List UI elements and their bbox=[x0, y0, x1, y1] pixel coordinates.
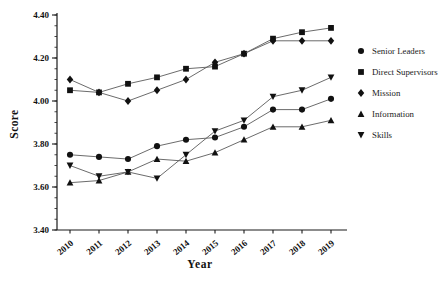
triangle-down-marker-icon bbox=[67, 163, 74, 169]
legend-item-direct-supervisors: Direct Supervisors bbox=[356, 61, 438, 82]
y-tick-label: 4.00 bbox=[33, 96, 49, 106]
triangle-down-marker-icon bbox=[328, 74, 335, 80]
circle-marker-icon bbox=[328, 96, 334, 102]
square-marker-icon bbox=[154, 74, 160, 80]
x-tick-label: 2018 bbox=[287, 238, 308, 258]
series-markers-direct-supervisors bbox=[67, 25, 334, 95]
legend: Senior Leaders Direct Supervisors Missio… bbox=[356, 40, 438, 145]
y-tick-label: 3.40 bbox=[33, 225, 49, 235]
triangle-down-marker-icon bbox=[241, 117, 248, 123]
circle-marker-icon bbox=[183, 137, 189, 143]
triangle-up-marker-icon bbox=[356, 109, 366, 119]
legend-item-skills: Skills bbox=[356, 124, 438, 145]
legend-item-mission: Mission bbox=[356, 82, 438, 103]
diamond-marker-icon bbox=[356, 88, 366, 98]
line-chart: 3.403.603.804.004.204.402010201120122013… bbox=[0, 0, 443, 281]
y-axis-title: Score bbox=[8, 109, 20, 138]
circle-marker-icon bbox=[154, 143, 160, 149]
x-tick-label: 2016 bbox=[229, 238, 250, 258]
diamond-marker-icon bbox=[358, 89, 364, 97]
diamond-marker-icon bbox=[328, 37, 334, 45]
legend-label: Senior Leaders bbox=[372, 46, 425, 56]
square-marker-icon bbox=[183, 66, 189, 72]
diamond-marker-icon bbox=[125, 97, 131, 105]
legend-label: Skills bbox=[372, 130, 392, 140]
series-markers-senior-leaders bbox=[67, 96, 334, 162]
circle-marker-icon bbox=[270, 107, 276, 113]
circle-marker-icon bbox=[299, 107, 305, 113]
square-marker-icon bbox=[356, 67, 366, 77]
circle-marker-icon bbox=[67, 152, 73, 158]
triangle-up-marker-icon bbox=[241, 136, 248, 142]
legend-item-information: Information bbox=[356, 103, 438, 124]
x-axis-title: Year bbox=[0, 258, 400, 270]
triangle-down-marker-icon bbox=[356, 130, 366, 140]
series-line-information bbox=[70, 120, 331, 182]
triangle-down-marker-icon bbox=[358, 132, 365, 138]
x-tick-label: 2012 bbox=[113, 238, 134, 258]
series-line-senior-leaders bbox=[70, 99, 331, 159]
legend-label: Information bbox=[372, 109, 414, 119]
triangle-up-marker-icon bbox=[328, 117, 335, 123]
square-marker-icon bbox=[299, 29, 305, 35]
circle-marker-icon bbox=[356, 46, 366, 56]
square-marker-icon bbox=[125, 81, 131, 87]
circle-marker-icon bbox=[241, 124, 247, 130]
square-marker-icon bbox=[67, 87, 73, 93]
circle-marker-icon bbox=[212, 134, 218, 140]
y-tick-label: 4.20 bbox=[33, 53, 49, 63]
y-tick-label: 3.60 bbox=[33, 182, 49, 192]
x-tick-label: 2010 bbox=[55, 238, 76, 258]
x-tick-label: 2011 bbox=[84, 238, 104, 257]
legend-label: Direct Supervisors bbox=[372, 67, 438, 77]
triangle-up-marker-icon bbox=[212, 149, 219, 155]
diamond-marker-icon bbox=[67, 76, 73, 84]
x-tick-label: 2013 bbox=[142, 238, 163, 258]
x-tick-label: 2017 bbox=[258, 238, 279, 258]
square-marker-icon bbox=[358, 69, 364, 75]
square-marker-icon bbox=[328, 25, 334, 31]
legend-label: Mission bbox=[372, 88, 400, 98]
series-line-skills bbox=[70, 77, 331, 178]
triangle-up-marker-icon bbox=[358, 110, 365, 116]
x-tick-label: 2015 bbox=[200, 238, 221, 258]
triangle-down-marker-icon bbox=[154, 176, 161, 182]
circle-marker-icon bbox=[96, 154, 102, 160]
x-tick-label: 2019 bbox=[316, 238, 337, 258]
triangle-down-marker-icon bbox=[96, 173, 103, 179]
x-tick-label: 2014 bbox=[171, 238, 192, 258]
circle-marker-icon bbox=[125, 156, 131, 162]
legend-item-senior-leaders: Senior Leaders bbox=[356, 40, 438, 61]
diamond-marker-icon bbox=[154, 86, 160, 94]
series-line-direct-supervisors bbox=[70, 28, 331, 93]
circle-marker-icon bbox=[358, 47, 364, 53]
series-line-mission bbox=[70, 41, 331, 101]
diamond-marker-icon bbox=[183, 76, 189, 84]
diamond-marker-icon bbox=[299, 37, 305, 45]
y-tick-label: 3.80 bbox=[33, 139, 49, 149]
y-tick-label: 4.40 bbox=[33, 10, 49, 20]
